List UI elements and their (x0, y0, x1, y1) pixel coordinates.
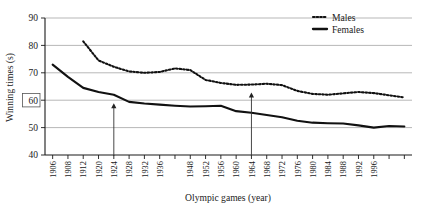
x-tick-label-1952: 1952 (202, 161, 211, 178)
arrow-1964-males-head (249, 92, 254, 97)
x-axis-title: Olympic games (year) (185, 192, 271, 204)
x-tick-label-1932: 1932 (141, 161, 150, 178)
x-tick-label-1976: 1976 (294, 161, 303, 178)
legend-label-females: Females (332, 24, 364, 35)
x-tick-label-1912: 1912 (79, 161, 88, 178)
x-tick-label-1924: 1924 (110, 160, 119, 178)
x-tick-label-1984: 1984 (324, 160, 333, 178)
arrow-1924-females-head (111, 103, 116, 108)
x-tick-label-1972: 1972 (278, 161, 287, 178)
x-tick-label-1980: 1980 (309, 161, 318, 178)
y-tick-label-60: 60 (29, 96, 39, 106)
y-axis-ticks: 90 80 70 60 50 40 (23, 13, 46, 160)
legend-label-males: Males (332, 12, 356, 23)
y-tick-label-90: 90 (29, 13, 39, 23)
x-tick-label-1996: 1996 (370, 161, 379, 178)
series-line-females (53, 65, 405, 128)
x-tick-label-1920: 1920 (95, 161, 104, 178)
legend: Males Females (313, 12, 364, 35)
x-tick-label-1908: 1908 (64, 161, 73, 178)
x-tick-label-1906: 1906 (49, 161, 58, 178)
y-tick-label-50: 50 (29, 123, 39, 133)
x-tick-label-1968: 1968 (263, 161, 272, 178)
line-chart: 90 80 70 60 50 40 Winning times (s) 1906… (0, 0, 421, 208)
x-tick-label-1988: 1988 (339, 161, 348, 178)
x-tick-label-1956: 1956 (217, 161, 226, 178)
x-axis-ticks: 1906190819121920192419281932193619481952… (49, 155, 405, 178)
y-tick-label-70: 70 (29, 68, 39, 78)
x-tick-label-1992: 1992 (355, 161, 364, 178)
y-tick-label-40: 40 (29, 150, 39, 160)
series-line-males (83, 41, 404, 97)
x-tick-label-1964: 1964 (248, 160, 257, 178)
x-tick-label-1960: 1960 (232, 161, 241, 178)
x-tick-label-1948: 1948 (186, 161, 195, 178)
x-tick-label-1928: 1928 (125, 161, 134, 178)
y-tick-label-80: 80 (29, 41, 39, 51)
chart-container: 90 80 70 60 50 40 Winning times (s) 1906… (0, 0, 421, 208)
y-axis-title: Winning times (s) (4, 53, 16, 122)
x-tick-label-1936: 1936 (156, 161, 165, 178)
